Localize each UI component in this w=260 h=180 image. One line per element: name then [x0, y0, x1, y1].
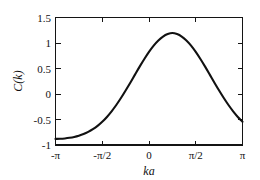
x-tick-label: -π/2: [93, 149, 111, 161]
y-tick-label: 0: [46, 88, 52, 100]
y-tick-label: 1: [46, 37, 52, 49]
x-tick-label: -π: [51, 149, 61, 161]
y-tick-label: -1: [42, 139, 51, 151]
figure-background: [0, 0, 260, 180]
y-tick-label: 0.5: [37, 63, 51, 75]
x-axis-title: ka: [143, 164, 154, 178]
y-axis-title: C(k): [11, 70, 25, 91]
y-tick-label: -0.5: [34, 114, 52, 126]
plot-canvas: 1.5 1 0.5 0 -0.5 -1 -π -π/2 0 π/2 π ka C…: [0, 0, 260, 180]
x-tick-label: π/2: [189, 149, 203, 161]
chart-figure: 1.5 1 0.5 0 -0.5 -1 -π -π/2 0 π/2 π ka C…: [0, 0, 260, 180]
x-tick-label: π: [240, 149, 246, 161]
x-tick-label: 0: [146, 149, 152, 161]
y-tick-label: 1.5: [37, 12, 51, 24]
